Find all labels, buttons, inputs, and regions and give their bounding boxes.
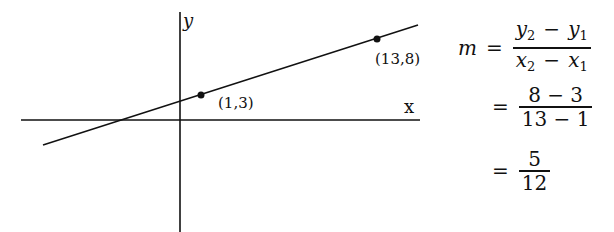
point-1-3: [198, 92, 205, 99]
point-13-8: [374, 36, 381, 43]
result-fraction: 5 12: [519, 148, 550, 194]
coordinate-graph: [0, 0, 440, 232]
slope-derivation: m = y2−y1 x2−x1 = 8 − 3 13 − 1 = 5 12: [450, 0, 614, 232]
substitution-row: = 8 − 3 13 − 1: [486, 84, 592, 130]
result-row: = 5 12: [486, 148, 550, 194]
substitution-denominator: 13 − 1: [519, 108, 593, 130]
slope-symbol: m: [458, 36, 480, 60]
substitution-numerator: 8 − 3: [525, 84, 586, 106]
substitution-fraction: 8 − 3 13 − 1: [519, 84, 593, 130]
line-through-points: [43, 25, 418, 145]
equals-sign: =: [492, 159, 509, 183]
equals-sign: =: [486, 36, 503, 60]
slope-formula-row: m = y2−y1 x2−x1: [458, 18, 591, 78]
result-numerator: 5: [525, 148, 544, 170]
formula-denominator: x2−x1: [513, 49, 591, 78]
y-axis-label: y: [183, 10, 193, 31]
result-denominator: 12: [519, 172, 550, 194]
slope-formula-fraction: y2−y1 x2−x1: [513, 18, 591, 78]
x-axis-label: x: [404, 96, 414, 117]
point-label-1-3: (1,3): [218, 94, 254, 112]
equals-sign: =: [492, 95, 509, 119]
formula-numerator: y2−y1: [513, 18, 591, 47]
point-label-13-8: (13,8): [375, 50, 420, 68]
